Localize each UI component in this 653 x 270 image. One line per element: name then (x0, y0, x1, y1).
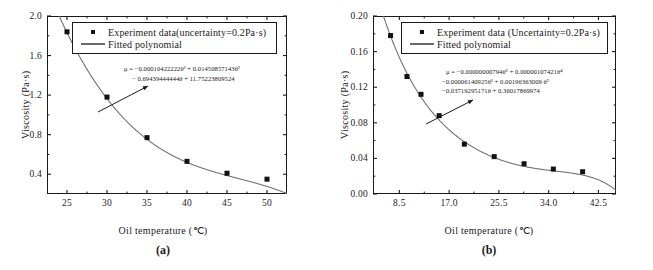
y-tick-label: 0.8 (9, 130, 42, 140)
square-marker-icon (78, 30, 108, 35)
y-axis-title-b: Viscosity (Pa·s) (339, 71, 350, 139)
square-marker-icon (407, 30, 437, 35)
figure-container: Viscosity (Pa·s) Oil temperature (℃) Exp… (0, 0, 653, 270)
legend-b: Experiment data (Uncertainty=0.2Pa·s) Fi… (401, 22, 608, 54)
equation-annotation-a: μ = −0.00010422222θ³ + 0.01450857143θ² −… (124, 64, 240, 83)
y-tick-label: 0.04 (335, 153, 368, 163)
x-tick-label: 17.0 (440, 198, 457, 208)
legend-entry-experiment-data-a: Experiment data(uncertainty=0.2Pa·s) (78, 26, 269, 38)
y-tick-label: 1.2 (9, 90, 42, 100)
legend-a: Experiment data(uncertainty=0.2Pa·s) Fit… (72, 22, 277, 54)
x-tick-label: 34.0 (540, 198, 557, 208)
y-tick-label: 2.0 (9, 11, 42, 21)
x-tick-label: 45 (222, 198, 232, 208)
panel-caption-a: (a) (0, 243, 326, 258)
y-tick-label: 0.00 (335, 189, 368, 199)
legend-label-fitted-polynomial-a: Fitted polynomial (108, 39, 182, 50)
x-tick-label: 30 (102, 198, 112, 208)
y-tick-label: 0.20 (335, 11, 368, 21)
line-sample-icon (78, 43, 108, 44)
legend-entry-fitted-polynomial-b: Fitted polynomial (407, 38, 600, 50)
x-axis-title-a: Oil temperature (℃) (0, 225, 326, 236)
equation-line-2-a: − 0.69439444444θ + 11.75223809524 (124, 74, 240, 84)
x-tick-label: 8.5 (393, 198, 405, 208)
equation-line-3-b: −0.03719295171θ + 0.36017869974 (442, 86, 563, 96)
y-tick-label: 0.12 (335, 82, 368, 92)
y-tick-label: 0.4 (9, 169, 42, 179)
line-sample-icon (407, 43, 437, 44)
equation-annotation-b: μ = −0.00000000794θ⁵ + 0.00000107421θ⁴ −… (442, 67, 563, 96)
equation-line-2-b: −0.00006140925θ³ + 0.00196363009 θ² (442, 77, 563, 87)
y-tick-label: 0.16 (335, 47, 368, 57)
legend-label-experiment-data-b: Experiment data (Uncertainty=0.2Pa·s) (437, 27, 600, 38)
x-tick-label: 35 (142, 198, 152, 208)
x-tick-label: 50 (262, 198, 272, 208)
equation-line-1-b: μ = −0.00000000794θ⁵ + 0.00000107421θ⁴ (442, 67, 563, 77)
y-tick-label: 1.6 (9, 51, 42, 61)
y-tick-label: 0.08 (335, 118, 368, 128)
x-tick-label: 25.5 (490, 198, 507, 208)
legend-entry-experiment-data-b: Experiment data (Uncertainty=0.2Pa·s) (407, 26, 600, 38)
panel-caption-b: (b) (326, 243, 652, 258)
equation-line-1-a: μ = −0.00010422222θ³ + 0.01450857143θ² (124, 64, 240, 74)
x-axis-title-b: Oil temperature (℃) (326, 225, 652, 236)
x-tick-label: 25 (62, 198, 72, 208)
legend-label-fitted-polynomial-b: Fitted polynomial (437, 39, 511, 50)
panel-b: Viscosity (Pa·s) Oil temperature (℃) Exp… (326, 0, 652, 270)
panel-a: Viscosity (Pa·s) Oil temperature (℃) Exp… (0, 0, 326, 270)
x-tick-label: 40 (182, 198, 192, 208)
legend-entry-fitted-polynomial-a: Fitted polynomial (78, 38, 269, 50)
x-tick-label: 42.5 (590, 198, 607, 208)
legend-label-experiment-data-a: Experiment data(uncertainty=0.2Pa·s) (108, 27, 266, 38)
